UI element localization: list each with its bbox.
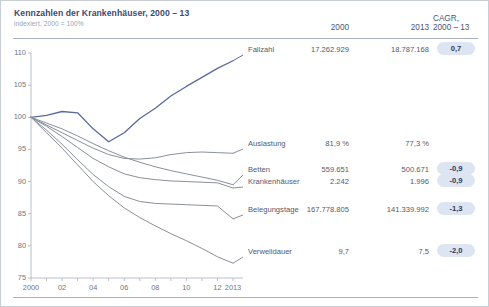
value-2000: 559.651: [277, 165, 349, 174]
series-label-betten: Betten: [248, 165, 270, 174]
value-2013: 77,3 %: [357, 139, 429, 148]
value-2013: 7,5: [357, 247, 429, 256]
header-divider: [13, 38, 478, 39]
series-leader-fallzahl: [233, 55, 243, 61]
series-leader-betten: [233, 175, 243, 185]
x-tick-label: 2013: [219, 283, 247, 292]
y-tick-label: 90: [4, 177, 26, 186]
series-line-betten: [31, 117, 233, 185]
series-label-fallzahl: Fallzahl: [248, 45, 274, 54]
y-tick-label: 110: [4, 48, 26, 57]
x-tick-label: 04: [79, 283, 107, 292]
value-2000: 9,7: [277, 247, 349, 256]
series-leader-auslastung: [233, 149, 243, 153]
value-2000: 167.778.805: [277, 205, 349, 214]
series-line-fallzahl: [31, 61, 233, 142]
value-2000: 17.262.929: [277, 45, 349, 54]
footer-divider: [13, 297, 478, 298]
x-tick-label: 08: [141, 283, 169, 292]
value-2000: 81,9 %: [277, 139, 349, 148]
page-subtitle: indexiert, 2000 = 100%: [14, 20, 84, 27]
y-tick-label: 75: [4, 273, 26, 282]
cagr-badge: 0,7: [437, 42, 475, 55]
series-leader-belegungstage: [233, 215, 243, 219]
cagr-badge: -0,9: [437, 174, 475, 187]
x-tick-label: 10: [172, 283, 200, 292]
cagr-badge: -1,3: [437, 202, 475, 215]
column-header-cagr-line2: 2000 – 13: [433, 23, 485, 32]
value-2000: 2.242: [277, 177, 349, 186]
value-2013: 500.671: [357, 165, 429, 174]
chart-card: Kennzahlen der Krankenhäuser, 2000 – 13 …: [0, 0, 489, 307]
cagr-badge: -2,0: [437, 244, 475, 257]
column-header-cagr-line1: CAGR,: [433, 14, 485, 23]
y-tick-label: 85: [4, 209, 26, 218]
y-tick-label: 95: [4, 144, 26, 153]
series-line-verweildauer: [31, 117, 233, 263]
value-2013: 141.339.992: [357, 205, 429, 214]
column-header-2013: 2013: [369, 23, 429, 32]
value-2013: 18.787.168: [357, 45, 429, 54]
series-leader-verweildauer: [233, 257, 243, 263]
series-leader-krankenhäuser: [233, 187, 243, 188]
x-tick-label: 02: [48, 283, 76, 292]
series-line-auslastung: [31, 117, 233, 159]
page-title: Kennzahlen der Krankenhäuser, 2000 – 13: [14, 8, 189, 18]
x-tick-label: 2000: [17, 283, 45, 292]
card-header: Kennzahlen der Krankenhäuser, 2000 – 13 …: [1, 1, 489, 41]
y-tick-label: 80: [4, 241, 26, 250]
y-tick-label: 100: [4, 112, 26, 121]
column-header-2000: 2000: [289, 23, 349, 32]
y-tick-label: 105: [4, 80, 26, 89]
value-2013: 1.996: [357, 177, 429, 186]
x-tick-label: 06: [110, 283, 138, 292]
